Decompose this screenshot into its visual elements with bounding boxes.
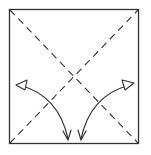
diagram-svg <box>0 0 151 155</box>
origami-diagram: Square paper with two dashed diagonal va… <box>0 0 151 155</box>
